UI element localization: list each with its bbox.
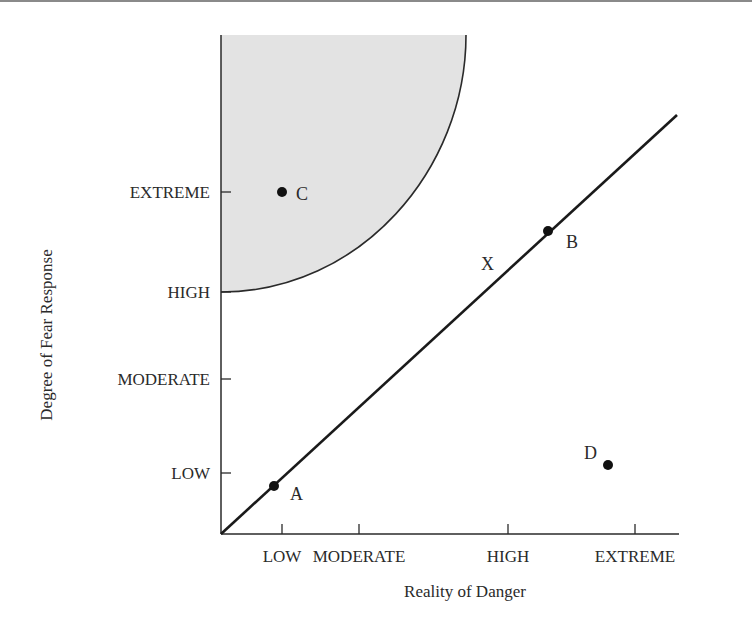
x-tick-label-high: HIGH xyxy=(487,547,530,566)
x-tick-label-moderate: MODERATE xyxy=(313,547,406,566)
x-tick-label-extreme: EXTREME xyxy=(595,547,675,566)
y-tick-label-moderate: MODERATE xyxy=(117,370,210,389)
point-d xyxy=(603,460,613,470)
point-b xyxy=(543,226,553,236)
y-tick-label-high: HIGH xyxy=(168,283,211,302)
y-axis-title: Degree of Fear Response xyxy=(37,249,56,420)
point-label-d: D xyxy=(584,443,597,463)
point-label-c: C xyxy=(296,184,308,204)
y-tick-label-extreme: EXTREME xyxy=(130,183,210,202)
fear-danger-chart: LOWMODERATEHIGHEXTREMELOWMODERATEHIGHEXT… xyxy=(0,0,752,634)
point-label-b: B xyxy=(566,232,578,252)
x-axis-title: Reality of Danger xyxy=(404,582,526,601)
x-tick-label-low: LOW xyxy=(263,547,303,566)
point-label-a: A xyxy=(290,484,303,504)
point-c xyxy=(277,187,287,197)
shaded-region xyxy=(221,35,466,292)
point-a xyxy=(269,481,279,491)
y-tick-label-low: LOW xyxy=(171,464,211,483)
line-label-x: X xyxy=(481,254,494,274)
